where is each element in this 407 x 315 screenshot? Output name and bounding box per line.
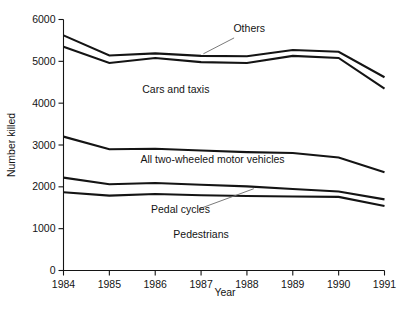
x-tick-label: 1984 [52,278,76,290]
series-line-4 [64,192,385,206]
y-tick-label: 1000 [32,222,56,234]
series-line-1 [64,47,385,89]
y-axis-tick-labels: 0100020003000400050006000 [32,13,56,276]
y-axis-tick-marks [59,20,64,271]
x-tick-label: 1985 [98,278,122,290]
annotation-label-2: All two-wheeled motor vehicles [140,153,284,165]
annotation-label-0: Others [233,22,265,34]
y-tick-label: 3000 [32,139,56,151]
x-tick-label: 1988 [235,278,259,290]
y-tick-label: 2000 [32,180,56,192]
x-tick-label: 1987 [189,278,213,290]
x-tick-label: 1986 [144,278,168,290]
annotation-label-3: Pedal cycles [151,203,210,215]
x-axis-title: Year [214,286,236,298]
line-chart-plot: 0100020003000400050006000 19841985198619… [0,0,407,315]
x-tick-label: 1991 [373,278,397,290]
chart-container: 0100020003000400050006000 19841985198619… [0,0,407,315]
y-tick-label: 4000 [32,97,56,109]
annotation-label-1: Cars and taxis [142,83,209,95]
y-tick-label: 5000 [32,55,56,67]
y-axis-title: Number killed [5,113,17,177]
data-series-group [64,35,385,206]
others-leader-line [203,38,234,54]
x-axis-tick-marks [64,271,385,276]
x-tick-label: 1990 [327,278,351,290]
x-tick-label: 1989 [281,278,305,290]
y-tick-label: 0 [50,264,56,276]
y-tick-label: 6000 [32,13,56,25]
series-line-0 [64,35,385,77]
annotation-label-4: Pedestrians [173,228,228,240]
